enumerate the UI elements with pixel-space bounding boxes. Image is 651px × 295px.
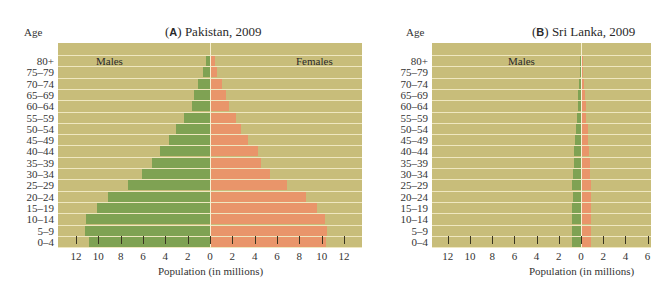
x-tick xyxy=(537,236,538,244)
female-bar xyxy=(582,192,591,202)
x-tick xyxy=(581,236,582,244)
x-tick xyxy=(299,236,300,244)
female-bar xyxy=(211,169,270,179)
x-tick xyxy=(232,236,233,244)
female-bar xyxy=(211,180,287,190)
female-bar xyxy=(211,79,222,89)
female-bar xyxy=(582,158,590,168)
age-label: 5–9 xyxy=(388,226,428,237)
x-tick-label: 6 xyxy=(267,250,287,262)
x-tick xyxy=(648,236,649,244)
male-bar xyxy=(572,180,581,190)
x-tick xyxy=(492,236,493,244)
female-bar xyxy=(211,113,236,123)
x-tick xyxy=(210,236,211,244)
female-bar xyxy=(211,203,317,213)
gridline xyxy=(432,78,651,79)
male-bar xyxy=(176,124,210,134)
female-bar xyxy=(211,124,241,134)
age-axis-title-b: Age xyxy=(406,26,424,38)
male-bar xyxy=(573,192,581,202)
female-bar xyxy=(582,180,591,190)
x-tick xyxy=(143,236,144,244)
pyramid-panel-sri-lanka: Males xyxy=(432,43,651,248)
x-tick-label: 10 xyxy=(460,250,480,262)
male-bar xyxy=(203,67,210,77)
chart-tag-a: A xyxy=(169,26,177,38)
age-label: 70–74 xyxy=(388,79,428,90)
gridline xyxy=(432,66,651,67)
age-label: 55–59 xyxy=(388,113,428,124)
x-tick-label: 2 xyxy=(549,250,569,262)
female-bar xyxy=(582,237,591,247)
female-bar xyxy=(582,169,590,179)
x-tick-label: 8 xyxy=(289,250,309,262)
x-tick-label: 4 xyxy=(155,250,175,262)
x-tick-label: 0 xyxy=(571,250,591,262)
x-tick-label: 8 xyxy=(482,250,502,262)
gridline xyxy=(432,134,651,135)
chart-title-text-a: Pakistan, 2009 xyxy=(185,24,262,39)
x-tick-label: 4 xyxy=(245,250,265,262)
x-tick xyxy=(322,236,323,244)
female-bar xyxy=(211,67,217,77)
age-label: 55–59 xyxy=(14,113,54,124)
gridline xyxy=(432,236,651,237)
x-tick-label: 2 xyxy=(178,250,198,262)
x-tick xyxy=(188,236,189,244)
female-bar xyxy=(211,90,226,100)
female-bar xyxy=(582,67,583,77)
x-tick-label: 12 xyxy=(334,250,354,262)
gridline xyxy=(432,247,651,248)
x-tick-label: 2 xyxy=(593,250,613,262)
x-tick xyxy=(448,236,449,244)
female-bar xyxy=(582,226,591,236)
age-axis-title-a: Age xyxy=(24,26,42,38)
chart-tag-b: B xyxy=(536,26,544,38)
x-tick-label: 12 xyxy=(66,250,86,262)
gridline xyxy=(432,168,651,169)
gridline xyxy=(432,112,651,113)
female-bar xyxy=(582,203,591,213)
female-bar xyxy=(582,135,588,145)
male-bar xyxy=(160,146,210,156)
male-bar xyxy=(572,237,581,247)
gridline xyxy=(432,225,651,226)
age-label: 10–14 xyxy=(14,214,54,225)
x-tick xyxy=(559,236,560,244)
female-bar xyxy=(582,214,591,224)
age-label: 0–4 xyxy=(14,237,54,248)
female-bar xyxy=(582,79,584,89)
females-label: Females xyxy=(296,55,333,67)
female-bar xyxy=(582,56,583,66)
female-bar xyxy=(582,101,586,111)
x-tick xyxy=(165,236,166,244)
x-tick xyxy=(98,236,99,244)
age-label: 75–79 xyxy=(14,67,54,78)
age-label: 60–64 xyxy=(14,101,54,112)
x-tick xyxy=(76,236,77,244)
gridline xyxy=(432,100,651,101)
x-tick xyxy=(625,236,626,244)
male-bar xyxy=(108,192,210,202)
gridline xyxy=(432,123,651,124)
age-label: 10–14 xyxy=(388,214,428,225)
male-bar xyxy=(142,169,210,179)
gridline xyxy=(432,191,651,192)
male-bar xyxy=(192,101,210,111)
chart-title-b: (B) Sri Lanka, 2009 xyxy=(532,24,635,40)
gridline xyxy=(432,89,651,90)
male-bar xyxy=(86,214,210,224)
male-bar xyxy=(572,226,581,236)
x-tick-label: 4 xyxy=(615,250,635,262)
x-tick-label: 10 xyxy=(312,250,332,262)
x-tick-label: 6 xyxy=(133,250,153,262)
x-tick xyxy=(603,236,604,244)
x-tick-label: 2 xyxy=(222,250,242,262)
age-label: 20–24 xyxy=(388,192,428,203)
age-label: 0–4 xyxy=(388,237,428,248)
male-bar xyxy=(89,237,210,247)
age-label: 40–44 xyxy=(388,146,428,157)
x-axis-title-a: Population (in millions) xyxy=(158,265,263,277)
male-bar xyxy=(128,180,210,190)
